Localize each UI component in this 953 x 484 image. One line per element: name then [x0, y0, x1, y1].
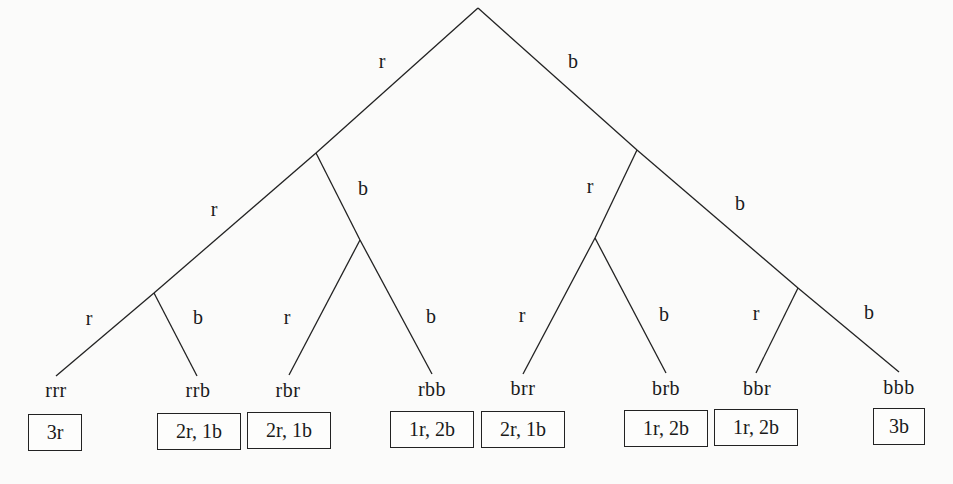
- edge-r-b: [316, 153, 360, 240]
- branch-label-rr-r: r: [86, 308, 93, 328]
- branch-label-br-b: b: [659, 304, 669, 324]
- branch-label-rb-r: r: [284, 307, 291, 327]
- edge-b-b: [637, 150, 798, 288]
- edge-root-b: [478, 8, 637, 150]
- leaf-sequence-brb: brb: [652, 378, 680, 398]
- edge-b-r: [595, 150, 637, 238]
- outcome-box-bbr: 1r, 2b: [714, 409, 798, 446]
- edge-rr-r: [56, 293, 154, 376]
- leaf-sequence-rrb: rrb: [186, 380, 211, 400]
- leaf-sequence-rbb: rbb: [418, 379, 446, 399]
- branch-label-b-b: b: [735, 193, 745, 213]
- edge-br-b: [595, 238, 666, 373]
- branch-label-r-b: b: [358, 178, 368, 198]
- branch-label-bb-b: b: [864, 302, 874, 322]
- edge-rb-r: [289, 240, 360, 375]
- edge-root-r: [316, 8, 478, 153]
- leaf-sequence-bbr: bbr: [743, 378, 771, 398]
- leaf-sequence-bbb: bbb: [883, 377, 915, 397]
- outcome-box-brb: 1r, 2b: [624, 410, 708, 447]
- edge-bb-b: [798, 288, 899, 372]
- outcome-box-rbb: 1r, 2b: [390, 411, 474, 448]
- edge-rb-b: [360, 240, 432, 374]
- edge-br-r: [523, 238, 595, 374]
- branch-label-r-r: r: [211, 199, 218, 219]
- leaf-sequence-rrr: rrr: [45, 380, 66, 400]
- leaf-sequence-brr: brr: [511, 378, 536, 398]
- branch-label-bb-r: r: [753, 303, 760, 323]
- tree-diagram: r b r b r b r b r b r b r b rrr rrb rbr …: [0, 0, 953, 484]
- branch-label-rb-b: b: [426, 306, 436, 326]
- branch-label-br-r: r: [519, 305, 526, 325]
- branch-label-root-b: b: [568, 51, 578, 71]
- outcome-box-bbb: 3b: [873, 408, 925, 445]
- branch-label-b-r: r: [587, 176, 594, 196]
- branch-label-root-r: r: [379, 51, 386, 71]
- leaf-sequence-rbr: rbr: [276, 380, 301, 400]
- branch-label-rr-b: b: [193, 307, 203, 327]
- edge-bb-r: [756, 288, 798, 373]
- outcome-box-rrr: 3r: [28, 414, 82, 451]
- outcome-box-brr: 2r, 1b: [481, 411, 565, 448]
- tree-edges: [0, 0, 953, 484]
- edge-rr-b: [154, 293, 197, 376]
- outcome-box-rrb: 2r, 1b: [157, 413, 241, 450]
- outcome-box-rbr: 2r, 1b: [247, 412, 331, 449]
- edge-r-r: [154, 153, 316, 293]
